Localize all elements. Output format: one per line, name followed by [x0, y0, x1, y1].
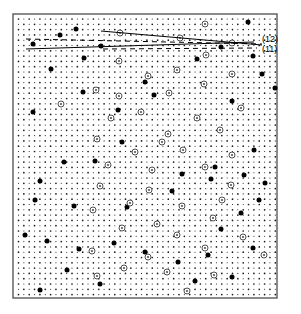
lattice-dot — [205, 209, 206, 210]
lattice-dot — [151, 214, 153, 216]
lattice-dot — [243, 246, 244, 247]
lattice-dot — [258, 288, 260, 290]
lattice-dot — [258, 129, 260, 131]
lattice-dot — [82, 183, 83, 184]
lattice-dot — [151, 235, 153, 237]
lattice-dot — [232, 225, 233, 226]
lattice-dot — [125, 34, 126, 35]
lattice-dot — [55, 61, 56, 62]
lattice-dot — [71, 225, 72, 226]
lattice-dot — [200, 215, 201, 216]
lattice-dot — [216, 151, 218, 153]
lattice-dot — [60, 177, 62, 179]
lattice-dot — [269, 93, 270, 94]
lattice-dot — [141, 61, 142, 62]
lattice-dot — [232, 241, 234, 243]
lattice-dot — [205, 61, 206, 62]
lattice-dot — [34, 167, 35, 168]
lattice-dot — [243, 193, 244, 194]
lattice-dot — [114, 82, 116, 84]
lattice-dot — [157, 50, 159, 52]
lattice-dot — [130, 172, 132, 174]
lattice-dot — [259, 273, 260, 274]
lattice-dot — [23, 76, 25, 78]
lattice-dot — [93, 230, 95, 232]
lattice-dot — [205, 34, 207, 36]
lattice-dot — [82, 151, 83, 152]
lattice-dot — [205, 252, 206, 253]
lattice-dot — [114, 50, 116, 52]
lattice-dot — [152, 262, 153, 263]
lattice-dot — [221, 135, 223, 137]
lattice-dot — [23, 140, 25, 142]
lattice-dot — [211, 130, 212, 131]
lattice-dot — [253, 188, 255, 190]
lattice-dot — [71, 50, 73, 52]
lattice-dot — [136, 225, 137, 226]
lattice-dot — [173, 87, 175, 89]
lattice-dot — [264, 294, 266, 296]
lattice-dot — [39, 198, 41, 200]
lattice-dot — [119, 151, 121, 153]
lattice-dot — [34, 119, 36, 121]
lattice-dot — [98, 108, 100, 110]
lattice-dot — [71, 156, 73, 158]
lattice-dot — [50, 156, 52, 158]
lattice-dot — [167, 103, 169, 105]
lattice-dot — [221, 156, 223, 158]
lattice-dot — [119, 193, 121, 195]
lattice-dot — [34, 288, 36, 290]
lattice-dot — [29, 225, 30, 226]
lattice-dot — [93, 215, 94, 216]
lattice-dot — [114, 98, 115, 99]
lattice-dot — [210, 251, 212, 253]
lattice-dot — [119, 278, 121, 280]
lattice-dot — [125, 283, 127, 285]
lattice-dot — [242, 61, 244, 63]
lattice-dot — [141, 23, 143, 25]
lattice-dot — [269, 119, 271, 121]
lattice-dot — [248, 294, 249, 295]
lattice-dot — [226, 235, 228, 237]
lattice-dot — [259, 40, 260, 41]
lattice-dot — [23, 40, 24, 41]
lattice-dot — [50, 236, 51, 237]
lattice-dot — [109, 288, 111, 290]
lattice-dot — [167, 114, 169, 116]
lattice-dot — [55, 55, 57, 57]
lattice-dot — [120, 82, 121, 83]
lattice-dot — [114, 156, 116, 158]
lattice-dot — [200, 167, 202, 169]
lattice-dot — [77, 199, 78, 200]
lattice-dot — [50, 92, 52, 94]
lattice-dot — [152, 177, 153, 178]
lattice-dot — [162, 71, 163, 72]
lattice-dot — [50, 29, 52, 31]
lattice-dot — [39, 135, 41, 137]
lattice-dot — [248, 288, 250, 290]
lattice-dot — [274, 220, 276, 222]
lattice-dot — [34, 241, 35, 242]
lattice-dot — [29, 87, 30, 88]
lattice-dot — [242, 114, 244, 116]
lattice-dot — [269, 124, 270, 125]
lattice-dot — [264, 140, 265, 141]
lattice-dot — [237, 177, 238, 178]
lattice-dot — [269, 220, 270, 221]
lattice-dot — [28, 198, 30, 200]
lattice-dot — [269, 273, 270, 274]
lattice-dot — [130, 146, 131, 147]
lattice-dot — [210, 103, 212, 105]
lattice-dot — [259, 135, 260, 136]
lattice-dot — [23, 71, 24, 72]
lattice-dot — [216, 18, 217, 19]
lattice-dot — [221, 283, 223, 285]
lattice-dot — [60, 92, 62, 94]
lattice-dot — [221, 87, 222, 88]
lattice-dot — [39, 215, 40, 216]
lattice-dot — [259, 93, 260, 94]
lattice-dot — [130, 103, 131, 104]
lattice-dot — [216, 76, 218, 78]
lattice-dot — [119, 119, 121, 121]
lattice-dot — [77, 273, 78, 274]
